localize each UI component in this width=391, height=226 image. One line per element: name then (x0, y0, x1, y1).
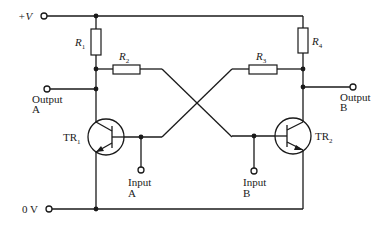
transistor-tr2: TR2 (275, 118, 333, 154)
tr1-label: TR1 (63, 131, 81, 146)
r4-label: R4 (311, 35, 323, 50)
transistor-tr1: TR1 (63, 119, 124, 209)
output-a-sublabel: A (32, 103, 40, 115)
ground-terminal (46, 206, 52, 212)
junction-dot (301, 67, 306, 72)
resistor-r2: R2 (96, 50, 162, 74)
input-a-terminal (138, 167, 144, 173)
r3-label: R3 (255, 50, 267, 65)
input-b-sublabel: B (243, 187, 250, 199)
resistor-r3: R3 (232, 50, 303, 74)
positive-terminal (41, 13, 47, 19)
cross-coupling (162, 69, 232, 137)
output-b-sublabel: B (340, 101, 347, 113)
input-b: Input B (243, 136, 266, 199)
ground-rail-label: 0 V (22, 203, 38, 215)
positive-rail: +V (18, 10, 303, 28)
output-b-terminal (350, 84, 356, 90)
resistor-r4: R4 (298, 28, 323, 122)
output-b: Output B (303, 84, 371, 113)
r2-label: R2 (118, 50, 130, 65)
positive-rail-label: +V (18, 10, 33, 22)
input-a: Input A (128, 137, 151, 199)
r1-label: R1 (74, 36, 86, 51)
input-a-sublabel: A (128, 187, 136, 199)
output-a: Output A (32, 86, 96, 115)
tr2-label: TR2 (315, 130, 333, 145)
input-b-terminal (251, 168, 257, 174)
output-a-terminal (44, 86, 50, 92)
circuit-diagram: +V 0 V R1 R2 Output A TR1 (0, 0, 391, 226)
